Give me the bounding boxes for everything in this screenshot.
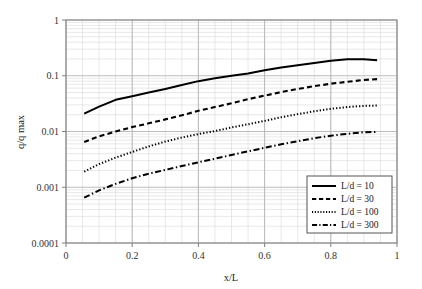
y-tick-label: 0.0001 [32, 238, 60, 249]
legend-label: L/d = 300 [341, 220, 379, 230]
legend-label: L/d = 100 [341, 207, 379, 217]
x-axis-title: x/L [224, 272, 239, 283]
x-tick-label: 1 [395, 250, 400, 261]
y-axis-ticks [62, 20, 66, 243]
line-chart: 10.10.010.0010.0001 00.20.40.60.81 x/L q… [0, 0, 422, 289]
x-tick-label: 0.6 [258, 250, 271, 261]
y-axis-tick-labels: 10.10.010.0010.0001 [32, 15, 60, 249]
y-axis-title: q/q max [15, 114, 26, 149]
y-tick-label: 0.1 [47, 70, 60, 81]
x-tick-label: 0 [64, 250, 69, 261]
x-axis-tick-labels: 00.20.40.60.81 [64, 250, 400, 261]
chart-container: 10.10.010.0010.0001 00.20.40.60.81 x/L q… [0, 0, 422, 289]
legend-label: L/d = 30 [341, 194, 374, 204]
y-tick-label: 1 [54, 15, 59, 26]
y-tick-label: 0.001 [37, 182, 60, 193]
y-tick-label: 0.01 [42, 126, 60, 137]
x-tick-label: 0.8 [325, 250, 338, 261]
x-tick-label: 0.2 [126, 250, 139, 261]
legend-label: L/d = 10 [341, 181, 374, 191]
x-axis-ticks [66, 243, 397, 247]
x-tick-label: 0.4 [192, 250, 205, 261]
legend: L/d = 10L/d = 30L/d = 100L/d = 300 [307, 176, 392, 233]
